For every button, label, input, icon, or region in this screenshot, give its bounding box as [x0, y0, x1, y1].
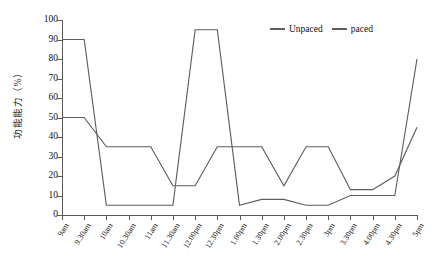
legend-label-paced: paced: [351, 24, 373, 34]
series-lines: [0, 0, 435, 269]
legend-swatch-icon: [270, 28, 285, 29]
legend: Unpaced paced: [270, 24, 373, 34]
series-line-unpaced: [62, 30, 417, 206]
legend-entry-unpaced: Unpaced: [270, 24, 323, 34]
legend-swatch-icon: [332, 28, 347, 29]
line-chart: 功能能力（%） 0102030405060708090100 9am9.30am…: [0, 0, 435, 269]
legend-entry-paced: paced: [332, 24, 373, 34]
series-line-paced: [62, 118, 417, 190]
legend-label-unpaced: Unpaced: [289, 24, 323, 34]
